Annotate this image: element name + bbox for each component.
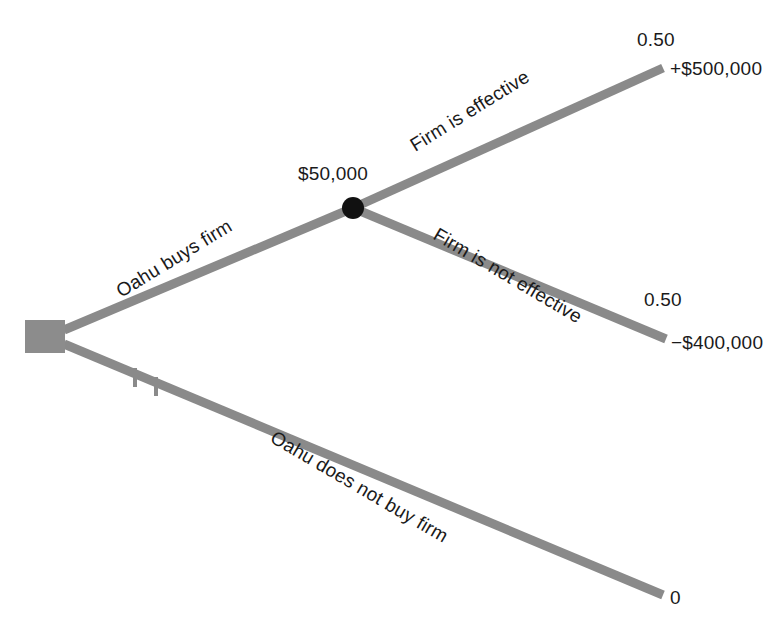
payoff-label-no-purchase: 0 bbox=[670, 587, 681, 609]
decision-node-square[interactable] bbox=[25, 320, 65, 353]
probability-label-firm-not-effective: 0.50 bbox=[644, 289, 682, 311]
payoff-label-firm-not-effective: −$400,000 bbox=[671, 332, 763, 354]
branch-line-do-not-buy-firm[interactable] bbox=[64, 344, 663, 595]
probability-label-firm-effective: 0.50 bbox=[637, 29, 675, 51]
decision-tree-diagram: $50,000 0.50 +$500,000 0.50 −$400,000 0 … bbox=[0, 0, 784, 623]
chance-node-expected-value: $50,000 bbox=[298, 163, 368, 185]
payoff-label-firm-effective: +$500,000 bbox=[670, 58, 762, 80]
chance-node-circle[interactable] bbox=[342, 197, 364, 219]
tree-graphics bbox=[0, 0, 784, 623]
